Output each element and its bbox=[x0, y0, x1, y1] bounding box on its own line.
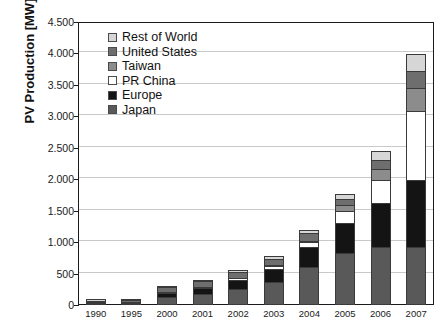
bar-2000 bbox=[157, 286, 177, 305]
x-tick-label-2002: 2002 bbox=[220, 308, 256, 319]
bar-segment-2006-rest-of-world bbox=[371, 151, 391, 160]
legend-item-europe: Europe bbox=[108, 88, 198, 103]
bar-2002 bbox=[228, 270, 248, 305]
legend-label: Taiwan bbox=[122, 59, 161, 74]
bar-2001 bbox=[193, 280, 213, 305]
x-axis-tick-labels: 1990199520002001200220032004200520062007 bbox=[78, 308, 434, 326]
bar-segment-2001-japan bbox=[193, 294, 213, 305]
legend-item-pr-china: PR China bbox=[108, 74, 198, 89]
x-tick-label-2006: 2006 bbox=[363, 308, 399, 319]
x-tick-label-2001: 2001 bbox=[185, 308, 221, 319]
bar-1990 bbox=[86, 299, 106, 305]
bar-segment-2003-japan bbox=[264, 282, 284, 305]
y-tick-label-4000: 4.000 bbox=[34, 48, 74, 58]
legend-item-taiwan: Taiwan bbox=[108, 59, 198, 74]
legend-item-united-states: United States bbox=[108, 45, 198, 60]
legend-label: PR China bbox=[122, 74, 176, 89]
y-tick-label-500: 500 bbox=[34, 269, 74, 279]
bar-segment-2007-taiwan bbox=[406, 88, 426, 111]
bar-segment-2007-rest-of-world bbox=[406, 54, 426, 72]
x-tick-label-1990: 1990 bbox=[78, 308, 114, 319]
legend: Rest of WorldUnited StatesTaiwanPR China… bbox=[108, 30, 198, 117]
legend-item-japan: Japan bbox=[108, 103, 198, 118]
bar-segment-2007-japan bbox=[406, 247, 426, 305]
legend-swatch-icon-europe bbox=[108, 91, 117, 100]
x-tick-label-1995: 1995 bbox=[114, 308, 150, 319]
bar-segment-2004-japan bbox=[299, 267, 319, 305]
y-tick-label-2500: 2.500 bbox=[34, 143, 74, 153]
y-tick-label-0: 0 bbox=[34, 300, 74, 310]
bar-2004 bbox=[299, 230, 319, 305]
bar-segment-1990-japan bbox=[86, 303, 106, 305]
x-tick-label-2004: 2004 bbox=[292, 308, 328, 319]
bar-segment-2000-japan bbox=[157, 297, 177, 305]
bar-segment-2006-europe bbox=[371, 203, 391, 246]
bar-segment-2006-pr-china bbox=[371, 180, 391, 203]
bar-segment-2002-europe bbox=[228, 280, 248, 289]
bar-2005 bbox=[335, 194, 355, 305]
bar-segment-2005-europe bbox=[335, 223, 355, 253]
x-tick-label-2005: 2005 bbox=[327, 308, 363, 319]
bar-2003 bbox=[264, 256, 284, 305]
bar-segment-2007-europe bbox=[406, 180, 426, 247]
bar-segment-2004-united-states bbox=[299, 233, 319, 241]
legend-item-rest-of-world: Rest of World bbox=[108, 30, 198, 45]
bar-2007 bbox=[406, 54, 426, 306]
pv-production-stacked-bar-chart: PV Production [MW] 05001.0001.5002.0002.… bbox=[0, 0, 446, 330]
legend-swatch-icon-rest-of-world bbox=[108, 33, 117, 42]
y-tick-label-3500: 3.500 bbox=[34, 80, 74, 90]
y-tick-label-4500: 4.500 bbox=[34, 17, 74, 27]
y-tick-label-1000: 1.000 bbox=[34, 237, 74, 247]
legend-label: Europe bbox=[122, 88, 162, 103]
bar-segment-2006-japan bbox=[371, 247, 391, 305]
legend-swatch-icon-taiwan bbox=[108, 62, 117, 71]
legend-label: Rest of World bbox=[122, 30, 198, 45]
y-tick-label-1500: 1.500 bbox=[34, 206, 74, 216]
bar-1995 bbox=[121, 299, 141, 305]
legend-swatch-icon-pr-china bbox=[108, 76, 117, 85]
x-tick-label-2007: 2007 bbox=[398, 308, 434, 319]
bar-segment-2006-united-states bbox=[371, 160, 391, 169]
legend-swatch-icon-united-states bbox=[108, 47, 117, 56]
legend-label: Japan bbox=[122, 103, 156, 118]
y-tick-mark-0 bbox=[74, 305, 79, 306]
bar-segment-1995-japan bbox=[121, 303, 141, 305]
legend-label: United States bbox=[122, 45, 197, 60]
bar-segment-2005-pr-china bbox=[335, 211, 355, 224]
bar-segment-2006-taiwan bbox=[371, 169, 391, 180]
y-tick-label-3000: 3.000 bbox=[34, 111, 74, 121]
x-tick-label-2003: 2003 bbox=[256, 308, 292, 319]
x-tick-label-2000: 2000 bbox=[149, 308, 185, 319]
bar-segment-2007-pr-china bbox=[406, 111, 426, 180]
bar-segment-2007-united-states bbox=[406, 71, 426, 88]
legend-swatch-icon-japan bbox=[108, 105, 117, 114]
bar-2006 bbox=[371, 151, 391, 305]
bar-segment-2003-europe bbox=[264, 269, 284, 282]
bar-segment-2002-japan bbox=[228, 289, 248, 305]
bar-segment-2004-europe bbox=[299, 247, 319, 267]
bar-segment-2005-japan bbox=[335, 253, 355, 305]
y-tick-label-2000: 2.000 bbox=[34, 174, 74, 184]
